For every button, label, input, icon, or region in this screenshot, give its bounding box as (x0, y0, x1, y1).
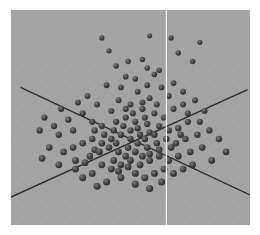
data-point (79, 140, 86, 147)
data-point (170, 106, 176, 112)
data-point (82, 159, 89, 166)
data-point (123, 114, 129, 120)
data-point (85, 93, 91, 99)
scatter-plot-3d[interactable] (11, 10, 250, 225)
data-point (156, 67, 162, 73)
data-point (189, 161, 196, 168)
data-point (101, 131, 107, 137)
data-point (202, 108, 208, 114)
data-point (116, 97, 122, 103)
data-point (72, 157, 79, 164)
data-point (135, 125, 141, 131)
data-point (147, 95, 153, 101)
data-point (132, 119, 138, 125)
data-point (147, 33, 152, 38)
data-point (141, 174, 148, 181)
data-point (142, 114, 148, 120)
data-point (168, 144, 175, 151)
data-point (176, 50, 181, 55)
data-point (125, 144, 132, 151)
data-point (103, 178, 110, 185)
data-point (125, 164, 132, 171)
data-point (134, 140, 141, 147)
data-point (127, 127, 133, 133)
data-point (169, 35, 174, 40)
data-point (216, 136, 222, 142)
data-point (175, 153, 182, 160)
data-point (46, 144, 53, 151)
data-point (151, 110, 157, 116)
data-point (142, 136, 148, 142)
data-point (135, 89, 141, 95)
data-point (89, 119, 95, 125)
data-point (170, 170, 177, 177)
data-point (139, 153, 146, 160)
data-point (87, 153, 94, 160)
data-point (151, 131, 157, 137)
data-point (139, 106, 145, 112)
data-point (65, 117, 71, 123)
data-point (75, 99, 81, 105)
data-point (158, 178, 165, 185)
data-point (70, 144, 77, 151)
data-point (144, 82, 150, 88)
data-point (146, 185, 153, 192)
data-point (72, 166, 79, 173)
data-point (118, 161, 125, 168)
data-point (206, 127, 212, 133)
data-point (132, 170, 139, 177)
data-point (151, 170, 158, 177)
data-point (117, 174, 124, 181)
data-point (154, 140, 161, 147)
data-point (106, 144, 113, 151)
data-point (197, 119, 203, 125)
data-point (111, 127, 117, 133)
data-point (115, 168, 122, 175)
data-point (123, 74, 129, 80)
data-point (175, 125, 181, 131)
data-point (137, 131, 143, 137)
data-point (127, 157, 134, 164)
data-point (185, 119, 191, 125)
data-point (156, 146, 163, 153)
data-point (146, 151, 153, 158)
data-point (108, 108, 114, 114)
data-point (132, 181, 139, 188)
data-point (89, 136, 95, 142)
data-point (197, 40, 202, 45)
data-point (127, 136, 133, 142)
data-point (192, 97, 198, 103)
data-point (113, 119, 119, 125)
data-point (182, 136, 188, 142)
data-point (79, 174, 86, 181)
data-point (180, 89, 186, 95)
data-point (132, 149, 139, 156)
data-point (180, 102, 186, 108)
data-point (223, 149, 230, 156)
data-point (130, 110, 136, 116)
data-point (156, 123, 162, 129)
data-point (146, 157, 153, 164)
data-point (199, 144, 206, 151)
data-point (96, 149, 103, 156)
data-point (99, 123, 105, 129)
data-point (99, 35, 104, 40)
data-point (208, 157, 215, 164)
data-point (94, 102, 100, 108)
data-point (194, 131, 200, 137)
data-point (70, 127, 76, 133)
data-point (187, 149, 194, 156)
data-point (180, 166, 187, 173)
data-point (99, 140, 106, 147)
data-point (127, 102, 133, 108)
data-point (159, 84, 165, 90)
data-point (144, 121, 150, 127)
data-point (190, 59, 195, 64)
data-point (106, 48, 111, 53)
3d-viewport[interactable] (11, 10, 250, 225)
data-point (36, 127, 42, 133)
data-point (177, 131, 183, 137)
data-point (108, 166, 115, 173)
data-point (171, 80, 177, 86)
data-point (113, 63, 119, 69)
